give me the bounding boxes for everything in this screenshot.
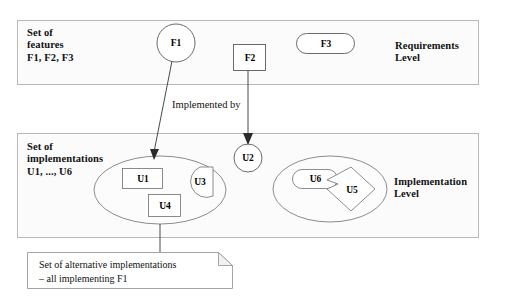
implementation-label-u2: U2 — [234, 151, 262, 165]
note-text-line1: Set of alternative implementations — [39, 258, 176, 272]
implementation-label-u3: U3 — [189, 175, 211, 189]
implementation-label-u5: U5 — [341, 183, 363, 197]
requirements-side-label: Set of features F1, F2, F3 — [27, 27, 74, 64]
diagram-root: Set of features F1, F2, F3 Requirements … — [0, 0, 506, 298]
feature-label-f2: F2 — [234, 51, 266, 65]
note-fold-corner — [219, 253, 233, 266]
feature-label-f1: F1 — [157, 36, 195, 50]
edge-label-implemented-by: Implemented by — [172, 99, 241, 111]
note-text-line2: – all implementing F1 — [39, 272, 128, 286]
implementation-level-label: Implementation Level — [394, 176, 467, 201]
requirements-level-label: Requirements Level — [395, 40, 459, 65]
implementation-side-label: Set of implementations U1, ..., U6 — [27, 141, 103, 178]
feature-label-f3: F3 — [297, 37, 355, 51]
implementation-label-u1: U1 — [123, 172, 163, 186]
implementation-label-u6: U6 — [293, 172, 338, 186]
implementation-label-u4: U4 — [149, 199, 181, 213]
